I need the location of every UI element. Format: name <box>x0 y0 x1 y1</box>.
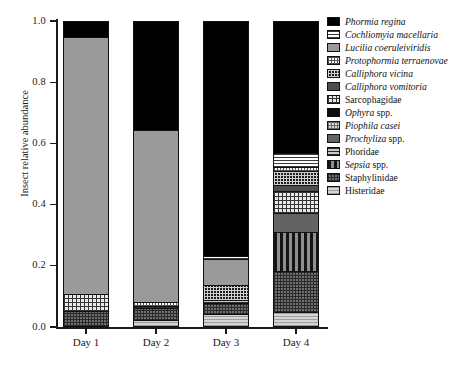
x-tick-mark <box>155 328 156 334</box>
legend-label: Phormia regina <box>345 17 406 27</box>
bar-segment <box>274 312 318 326</box>
bar-segment <box>64 294 108 311</box>
bar-segment <box>134 22 178 130</box>
x-tick-mark <box>225 328 226 334</box>
legend-item: Sepsia spp. <box>327 158 466 171</box>
y-tick-mark <box>50 204 57 205</box>
legend-swatch <box>327 56 340 66</box>
legend-label: Histeridae <box>345 186 384 196</box>
plot-area <box>57 21 325 327</box>
legend-label: Sepsia spp. <box>345 160 388 170</box>
y-tick-label: 1.0 <box>4 16 46 27</box>
legend-swatch <box>327 43 340 53</box>
legend-item: Lucilia coeruleiviridis <box>327 41 466 54</box>
legend-label: Sarcophagidae <box>345 95 401 105</box>
x-tick-label: Day 2 <box>121 337 191 348</box>
x-tick-mark <box>85 328 86 334</box>
bar-segment <box>204 303 248 315</box>
x-axis-line <box>56 327 328 329</box>
legend-item: Ophyra spp. <box>327 106 466 119</box>
legend-item: Calliphora vomitoria <box>327 80 466 93</box>
bar-segment <box>64 37 108 294</box>
legend-swatch <box>327 134 340 144</box>
legend-label: Calliphora vicina <box>345 69 413 79</box>
stacked-bar-day-1 <box>63 21 109 327</box>
legend-label-suffix: spp. <box>370 159 388 170</box>
y-tick-mark <box>50 265 57 266</box>
stacked-bar-day-2 <box>133 21 179 327</box>
legend-label: Staphylinidae <box>345 173 398 183</box>
bar-segment <box>134 308 178 320</box>
legend-item: Phormia regina <box>327 15 466 28</box>
chart-figure: Insect relative abundance 1.00.80.60.40.… <box>0 0 466 369</box>
bar-segment <box>134 130 178 302</box>
bar-segment <box>64 22 108 37</box>
legend-label: Phoridae <box>345 147 379 157</box>
x-tick-label: Day 4 <box>261 337 331 348</box>
bar-segment <box>64 311 108 326</box>
legend-label: Calliphora vomitoria <box>345 82 427 92</box>
legend-swatch <box>327 173 340 183</box>
legend-item: Sarcophagidae <box>327 93 466 106</box>
legend-item: Staphylinidae <box>327 171 466 184</box>
legend-item: Histeridae <box>327 184 466 197</box>
x-tick-label: Day 1 <box>51 337 121 348</box>
bar-segment <box>204 285 248 300</box>
legend-label-suffix: spp. <box>386 133 404 144</box>
bar-segment <box>204 259 248 285</box>
y-tick-mark <box>50 143 57 144</box>
bar-segment <box>134 320 178 326</box>
legend-swatch <box>327 160 340 170</box>
y-tick-label: 0.2 <box>4 260 46 271</box>
bar-segment <box>274 191 318 213</box>
legend-swatch <box>327 95 340 105</box>
stacked-bar-day-3 <box>203 21 249 327</box>
y-tick-mark <box>50 326 57 327</box>
legend-swatch <box>327 108 340 118</box>
stacked-bar-day-4 <box>273 21 319 327</box>
bar-segment <box>274 232 318 272</box>
bar-segment <box>274 213 318 232</box>
y-tick-mark <box>50 20 57 21</box>
bar-segment <box>204 22 248 256</box>
bar-segment <box>274 271 318 312</box>
legend-label: Protophormia terraenovae <box>345 56 448 66</box>
y-tick-label: 0.6 <box>4 138 46 149</box>
legend-swatch <box>327 30 340 40</box>
legend-item: Cochliomyia macellaria <box>327 28 466 41</box>
legend: Phormia reginaCochliomyia macellariaLuci… <box>327 15 466 197</box>
bar-segment <box>274 22 318 153</box>
bar-segment <box>274 171 318 185</box>
y-tick-label: 0.0 <box>4 322 46 333</box>
legend-label: Piophila casei <box>345 121 400 131</box>
y-tick-mark <box>50 82 57 83</box>
y-tick-label: 0.8 <box>4 77 46 88</box>
bar-segment <box>204 314 248 326</box>
legend-swatch <box>327 121 340 131</box>
bar-segment <box>274 153 318 168</box>
legend-label-suffix: spp. <box>374 107 392 118</box>
legend-label: Prochyliza spp. <box>345 134 404 144</box>
legend-item: Calliphora vicina <box>327 67 466 80</box>
legend-swatch <box>327 69 340 79</box>
x-tick-mark <box>295 328 296 334</box>
legend-label: Lucilia coeruleiviridis <box>345 43 431 53</box>
legend-swatch <box>327 186 340 196</box>
legend-item: Protophormia terraenovae <box>327 54 466 67</box>
legend-item: Phoridae <box>327 145 466 158</box>
legend-item: Piophila casei <box>327 119 466 132</box>
legend-label: Ophyra spp. <box>345 108 392 118</box>
legend-swatch <box>327 147 340 157</box>
legend-swatch <box>327 82 340 92</box>
y-tick-label: 0.4 <box>4 199 46 210</box>
legend-item: Prochyliza spp. <box>327 132 466 145</box>
legend-swatch <box>327 17 340 27</box>
legend-label: Cochliomyia macellaria <box>345 30 438 40</box>
x-tick-label: Day 3 <box>191 337 261 348</box>
